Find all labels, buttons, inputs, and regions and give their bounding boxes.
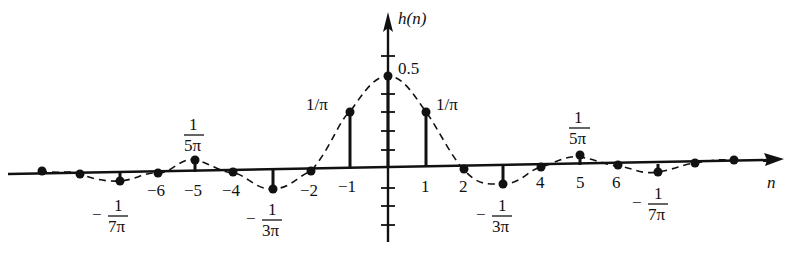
- svg-text:5π: 5π: [184, 136, 202, 155]
- svg-text:3π: 3π: [492, 217, 510, 236]
- svg-text:1: 1: [498, 196, 507, 215]
- svg-text:2: 2: [459, 177, 468, 196]
- svg-text:1: 1: [268, 200, 277, 219]
- svg-text:−5: −5: [184, 181, 202, 200]
- annotation-n-minus7: − 1 7π: [92, 196, 128, 236]
- svg-text:5: 5: [576, 173, 585, 192]
- svg-text:1: 1: [654, 184, 663, 203]
- svg-text:7π: 7π: [648, 205, 666, 224]
- svg-text:7π: 7π: [108, 217, 126, 236]
- label-n-plus1: 1/π: [436, 95, 458, 114]
- x-axis-label: n: [767, 173, 776, 192]
- svg-text:1: 1: [114, 196, 123, 215]
- stem-plot: h(n) n 0.5 1/π 1/π −6 −5 −4 −2 −1 1 2 4 …: [0, 0, 797, 259]
- annotation-n-plus3: − 1 3π: [476, 196, 512, 236]
- svg-text:−6: −6: [147, 181, 165, 200]
- svg-text:−: −: [92, 205, 102, 224]
- svg-text:1: 1: [574, 108, 583, 127]
- svg-text:−: −: [246, 209, 256, 228]
- annotation-n-plus5: 1 5π: [569, 108, 590, 148]
- svg-text:−: −: [476, 205, 486, 224]
- peak-label: 0.5: [398, 59, 419, 78]
- svg-text:1: 1: [421, 177, 430, 196]
- annotation-n-minus3: − 1 3π: [246, 200, 282, 240]
- annotation-n-minus5: 1 5π: [184, 115, 204, 155]
- svg-text:5π: 5π: [569, 129, 587, 148]
- label-n-minus1: 1/π: [306, 95, 328, 114]
- svg-text:−: −: [632, 193, 642, 212]
- svg-text:−1: −1: [338, 177, 356, 196]
- svg-text:6: 6: [612, 173, 621, 192]
- svg-text:−4: −4: [222, 181, 241, 200]
- y-axis-label: h(n): [398, 9, 427, 28]
- x-tick-labels: −6 −5 −4 −2 −1 1 2 4 5 6: [147, 173, 621, 200]
- x-axis-arrow-icon: [764, 153, 784, 166]
- annotation-n-plus7: − 1 7π: [632, 184, 668, 224]
- svg-text:−2: −2: [300, 181, 318, 200]
- svg-text:4: 4: [536, 173, 545, 192]
- svg-text:1: 1: [189, 115, 198, 134]
- svg-text:3π: 3π: [262, 221, 280, 240]
